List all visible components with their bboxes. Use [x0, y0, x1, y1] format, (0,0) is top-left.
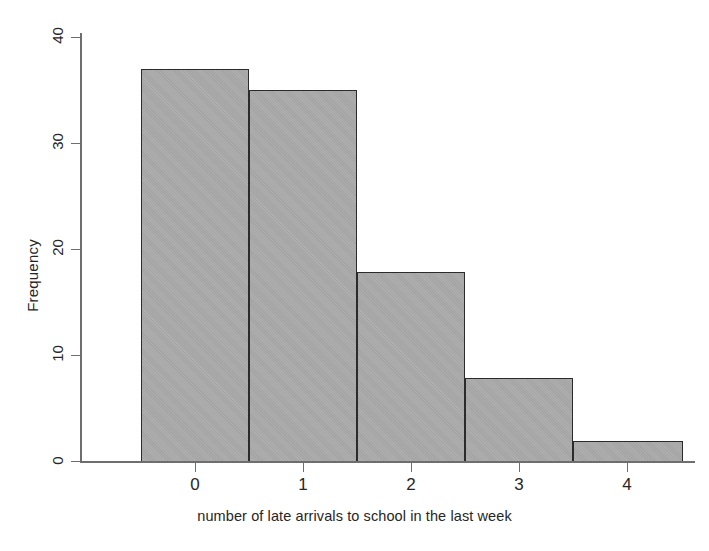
x-tick-label-1: 1	[283, 475, 323, 495]
x-tick-3	[519, 462, 521, 472]
bars-layer: 37 35 18 8 2	[0, 0, 709, 551]
x-tick-label-0: 0	[175, 475, 215, 495]
x-axis-line	[80, 461, 695, 463]
histogram-chart: Frequency 40 30 20 10 0 37 35 18 8 2 0 1…	[0, 0, 709, 551]
x-tick-2	[411, 462, 413, 472]
bar-category-0[interactable]: 37	[141, 69, 249, 463]
x-tick-label-3: 3	[499, 475, 539, 495]
x-tick-label-4: 4	[607, 475, 647, 495]
x-tick-0	[195, 462, 197, 472]
bar-category-1[interactable]: 35	[249, 90, 357, 463]
x-tick-4	[627, 462, 629, 472]
bar-category-2[interactable]: 18	[357, 272, 465, 463]
x-axis-label: number of late arrivals to school in the…	[0, 508, 709, 524]
bar-category-3[interactable]: 8	[465, 378, 573, 463]
bar-category-4[interactable]: 2	[573, 441, 683, 462]
x-tick-1	[303, 462, 305, 472]
x-tick-label-2: 2	[391, 475, 431, 495]
